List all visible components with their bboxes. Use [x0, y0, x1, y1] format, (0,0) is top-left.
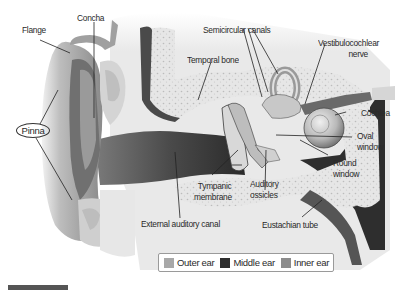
- label-oval-window-line2: window: [357, 141, 383, 152]
- label-flange: Flange: [22, 24, 46, 35]
- label-vestibulocochlear-nerve: Vestibulocochlear nerve: [318, 37, 379, 59]
- label-oval-window-line1: Oval: [357, 130, 383, 141]
- legend-swatch-outer-ear: [164, 258, 174, 268]
- label-round-window-line2: window: [333, 168, 359, 179]
- label-external-auditory-canal: External auditory canal: [141, 218, 220, 229]
- legend-label-inner-ear: Inner ear: [294, 257, 329, 268]
- legend-swatch-middle-ear: [220, 258, 230, 268]
- label-pinna-oval: Pinna: [16, 123, 50, 138]
- label-cochlea: Cochlea: [361, 107, 390, 118]
- label-semicircular-canals: Semicircular canals: [203, 24, 270, 35]
- label-round-window: Round window: [333, 157, 359, 179]
- legend-item-outer-ear: Outer ear: [164, 257, 214, 268]
- label-concha: Concha: [77, 12, 104, 23]
- legend-swatch-inner-ear: [281, 258, 291, 268]
- legend: Outer ear Middle ear Inner ear: [158, 253, 334, 272]
- legend-item-inner-ear: Inner ear: [281, 257, 329, 268]
- label-eustachian-tube: Eustachian tube: [262, 219, 318, 230]
- label-auditory-ossicles: Auditory ossicles: [250, 178, 279, 200]
- label-auditory-line1: Auditory: [250, 178, 279, 189]
- label-temporal-bone: Temporal bone: [187, 54, 239, 65]
- label-tympanic-line2: membrane: [194, 191, 232, 202]
- label-tympanic-membrane: Tympanic membrane: [194, 180, 232, 202]
- label-tympanic-line1: Tympanic: [194, 180, 232, 191]
- label-pinna: Pinna: [22, 125, 45, 136]
- label-vestibulocochlear-line2: nerve: [318, 48, 379, 59]
- footer-bar: [8, 285, 68, 290]
- legend-item-middle-ear: Middle ear: [220, 257, 274, 268]
- label-round-window-line1: Round: [333, 157, 359, 168]
- legend-label-middle-ear: Middle ear: [233, 257, 274, 268]
- legend-label-outer-ear: Outer ear: [177, 257, 214, 268]
- label-oval-window: Oval window: [357, 130, 383, 152]
- label-vestibulocochlear-line1: Vestibulocochlear: [318, 37, 379, 48]
- label-auditory-line2: ossicles: [250, 189, 279, 200]
